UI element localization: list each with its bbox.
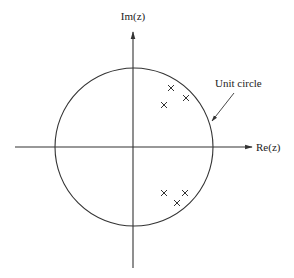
- pole-x-icon: [183, 95, 189, 101]
- pole-x-icon: [161, 190, 167, 196]
- pole-x-icon: [174, 200, 180, 206]
- pole-markers: [161, 85, 189, 206]
- pole-x-icon: [168, 85, 174, 91]
- unit-circle-leader-arrow: [212, 93, 234, 121]
- pole-x-icon: [182, 190, 188, 196]
- z-plane-diagram: Im(z) Re(z) Unit circle: [0, 0, 294, 278]
- x-axis-label: Re(z): [256, 141, 281, 154]
- pole-x-icon: [161, 102, 167, 108]
- unit-circle-label: Unit circle: [215, 77, 262, 89]
- y-axis-label: Im(z): [121, 10, 146, 23]
